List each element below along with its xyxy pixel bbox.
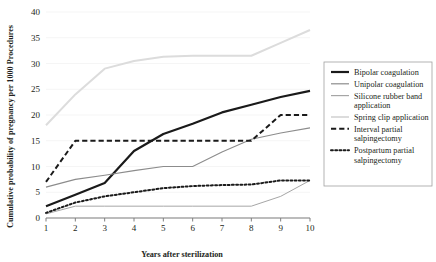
y-tick-label: 5 — [36, 187, 41, 197]
legend-label-5: Interval partial — [354, 125, 403, 134]
y-tick-label: 20 — [31, 110, 41, 120]
x-tick-label: 6 — [190, 223, 195, 233]
x-tick-label: 2 — [73, 223, 78, 233]
y-tick-label: 15 — [31, 136, 41, 146]
x-tick-label: 3 — [102, 223, 107, 233]
legend-label-3-line2: application — [354, 101, 390, 110]
x-tick-label: 1 — [44, 223, 49, 233]
y-tick-label: 35 — [31, 33, 41, 43]
x-tick-label: 8 — [249, 223, 254, 233]
y-axis-title: Cumulative probability of pregnancy per … — [6, 25, 15, 228]
y-tick-label: 10 — [31, 162, 41, 172]
x-tick-label: 10 — [306, 223, 316, 233]
chart-legend: Bipolar coagulationUnipolar coagulationS… — [324, 62, 432, 186]
legend-label-4: Spring clip application — [354, 113, 429, 122]
x-axis-title: Years after sterilization — [141, 250, 223, 259]
legend-label-6-line2: salpingectomy — [354, 156, 403, 165]
legend-label-3: Silicone rubber band — [354, 92, 422, 101]
y-tick-label: 0 — [36, 213, 41, 223]
x-tick-label: 7 — [220, 223, 225, 233]
legend-label-5-line2: salpingectomy — [354, 134, 403, 143]
legend-label-1: Bipolar coagulation — [354, 68, 419, 77]
y-tick-label: 25 — [31, 84, 41, 94]
x-tick-label: 4 — [132, 223, 137, 233]
x-tick-label: 5 — [161, 223, 166, 233]
legend-label-6: Postpartum partial — [354, 146, 415, 155]
y-tick-label: 30 — [31, 59, 41, 69]
chart-container: 0510152025303540 12345678910 Cumulative … — [0, 0, 436, 262]
legend-label-2: Unipolar coagulation — [354, 80, 423, 89]
x-tick-label: 9 — [278, 223, 283, 233]
line-chart: 0510152025303540 12345678910 Cumulative … — [0, 0, 436, 262]
y-tick-label: 40 — [31, 7, 41, 17]
